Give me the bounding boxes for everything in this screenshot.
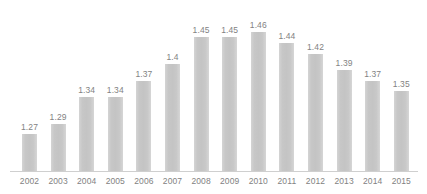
x-axis-tick-label: 2009 <box>220 176 239 187</box>
bar[interactable] <box>279 43 294 172</box>
bar-group: 1.27 <box>22 0 37 172</box>
bar-group: 1.37 <box>136 0 151 172</box>
bar[interactable] <box>51 124 66 172</box>
x-axis-tick-label: 2008 <box>191 176 210 187</box>
bar[interactable] <box>308 54 323 172</box>
x-axis-tick-label: 2006 <box>134 176 153 187</box>
x-axis-tick-label: 2007 <box>163 176 182 187</box>
bar-value-label: 1.45 <box>221 26 238 35</box>
bar-value-label: 1.45 <box>193 26 210 35</box>
x-axis-tick-label: 2011 <box>278 176 297 187</box>
x-axis-tick-labels: 2002200320042005200620072008200920102011… <box>0 176 427 190</box>
x-axis-tick-label: 2012 <box>306 176 325 187</box>
bar-group: 1.44 <box>279 0 294 172</box>
x-axis-tick-label: 2004 <box>77 176 96 187</box>
bar-chart: 1.271.291.341.341.371.41.451.451.461.441… <box>0 0 427 194</box>
bar-value-label: 1.37 <box>135 70 152 79</box>
bar-value-label: 1.27 <box>21 123 38 132</box>
bar-value-label: 1.42 <box>307 43 324 52</box>
bar[interactable] <box>222 37 237 172</box>
bar[interactable] <box>337 70 352 172</box>
x-axis-tick-label: 2005 <box>106 176 125 187</box>
x-axis-tick-label: 2010 <box>249 176 268 187</box>
bar-group: 1.39 <box>337 0 352 172</box>
bar-group: 1.37 <box>365 0 380 172</box>
bar-value-label: 1.29 <box>50 113 67 122</box>
x-axis-tick-label: 2002 <box>20 176 39 187</box>
bar[interactable] <box>394 91 409 172</box>
bar-value-label: 1.34 <box>78 86 95 95</box>
bar-value-label: 1.37 <box>364 70 381 79</box>
bar-group: 1.34 <box>79 0 94 172</box>
bar-value-label: 1.39 <box>336 59 353 68</box>
bar[interactable] <box>108 97 123 172</box>
bar-group: 1.35 <box>394 0 409 172</box>
bar-group: 1.42 <box>308 0 323 172</box>
bar[interactable] <box>22 134 37 172</box>
bar[interactable] <box>165 64 180 172</box>
bar-group: 1.45 <box>222 0 237 172</box>
plot-area: 1.271.291.341.341.371.41.451.451.461.441… <box>0 0 427 172</box>
bar[interactable] <box>365 81 380 172</box>
bar[interactable] <box>79 97 94 172</box>
bar[interactable] <box>251 32 266 172</box>
x-axis-tick-label: 2014 <box>363 176 382 187</box>
bar-group: 1.45 <box>194 0 209 172</box>
bar-group: 1.34 <box>108 0 123 172</box>
bar-value-label: 1.46 <box>250 21 267 30</box>
bar-group: 1.46 <box>251 0 266 172</box>
x-axis-line <box>10 171 418 172</box>
bar-value-label: 1.44 <box>278 32 295 41</box>
bar-group: 1.29 <box>51 0 66 172</box>
bar[interactable] <box>136 81 151 172</box>
bar-value-label: 1.4 <box>166 53 178 62</box>
bar-value-label: 1.34 <box>107 86 124 95</box>
x-axis-tick-label: 2013 <box>334 176 353 187</box>
bar-group: 1.4 <box>165 0 180 172</box>
bar-value-label: 1.35 <box>393 80 410 89</box>
bar[interactable] <box>194 37 209 172</box>
x-axis-tick-label: 2003 <box>48 176 67 187</box>
x-axis-tick-label: 2015 <box>392 176 411 187</box>
